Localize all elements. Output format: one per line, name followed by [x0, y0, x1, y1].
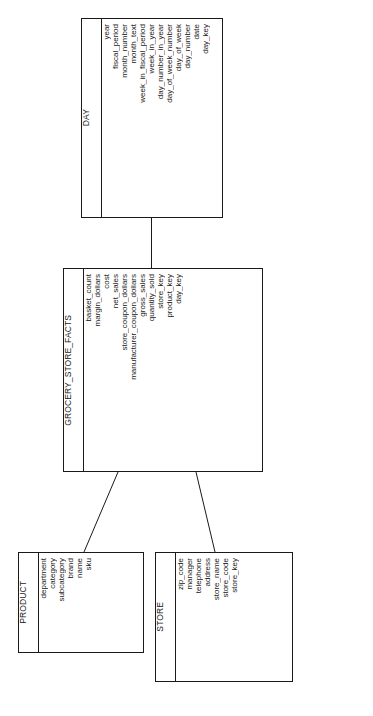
- field-product-4: category: [49, 555, 58, 592]
- field-day-9: month_number: [121, 21, 130, 81]
- field-store-0: store_key: [231, 555, 240, 596]
- field-facts-8: cost: [103, 271, 112, 292]
- field-day-3: day_of_week: [175, 21, 184, 74]
- field-store-2: store_name: [213, 555, 222, 603]
- entity-product[interactable]: PRODUCT sku name brand subcategory categ…: [18, 552, 144, 653]
- field-store-4: telephone: [195, 555, 204, 596]
- entity-day-title-cell: DAY: [82, 19, 102, 217]
- field-day-8: month_text: [130, 21, 139, 67]
- field-facts-9: margin_dollars: [94, 271, 103, 329]
- entity-facts-title: GROCERY_STORE_FACTS: [64, 312, 73, 429]
- field-product-5: department: [40, 555, 49, 601]
- entity-facts-fields: day_key product_key store_key quantity_s…: [84, 269, 262, 471]
- field-product-2: brand: [67, 555, 76, 581]
- entity-day[interactable]: DAY day_key date day_number day_of_week …: [81, 18, 223, 218]
- field-store-1: store_code: [222, 555, 231, 601]
- field-day-7: week_in_fiscal_period: [139, 21, 148, 106]
- field-day-0: day_key: [202, 21, 211, 57]
- field-day-2: day_number: [184, 21, 193, 71]
- relationship-line-facts-product: [84, 472, 118, 552]
- field-day-4: day_of_week_number: [166, 21, 175, 106]
- relationship-line-facts-store: [196, 472, 215, 552]
- field-facts-1: product_key: [166, 271, 175, 321]
- entity-day-fields: day_key date day_number day_of_week day_…: [102, 19, 222, 217]
- field-store-3: address: [204, 555, 213, 589]
- field-store-5: manager: [186, 555, 195, 593]
- entity-store-title-cell: STORE: [156, 553, 176, 681]
- entity-product-fields: sku name brand subcategory category depa…: [39, 553, 143, 652]
- entity-facts-title-cell: GROCERY_STORE_FACTS: [64, 269, 84, 471]
- field-day-5: day_number_in_year: [157, 21, 166, 102]
- field-day-1: date: [193, 21, 202, 43]
- entity-grocery-store-facts[interactable]: GROCERY_STORE_FACTS day_key product_key …: [63, 268, 263, 472]
- entity-store-fields: store_key store_code store_name address …: [176, 553, 292, 681]
- er-diagram-canvas: DAY day_key date day_number day_of_week …: [0, 0, 373, 716]
- field-facts-5: manufacturer_coupon_dollars: [130, 271, 139, 383]
- field-facts-7: net_sales: [112, 271, 121, 311]
- entity-product-title-cell: PRODUCT: [19, 553, 39, 652]
- field-facts-6: store_coupon_dollars: [121, 271, 130, 354]
- field-facts-3: quantity_sold: [148, 271, 157, 324]
- entity-store-title: STORE: [156, 599, 165, 635]
- entity-product-title: PRODUCT: [19, 578, 28, 627]
- field-day-11: year: [103, 21, 112, 43]
- field-product-3: subcategory: [58, 555, 67, 605]
- field-product-0: sku: [85, 555, 94, 573]
- field-day-6: week_in_year: [148, 21, 157, 76]
- entity-store[interactable]: STORE store_key store_code store_name ad…: [155, 552, 293, 682]
- field-day-10: fiscal_period: [112, 21, 121, 72]
- field-facts-2: store_key: [157, 271, 166, 312]
- entity-day-title: DAY: [82, 106, 91, 129]
- field-facts-4: gross_sales: [139, 271, 148, 320]
- field-product-1: name: [76, 555, 85, 581]
- field-store-6: zip_code: [177, 555, 186, 593]
- field-facts-0: day_key: [175, 271, 184, 307]
- field-facts-10: basket_count: [85, 271, 94, 325]
